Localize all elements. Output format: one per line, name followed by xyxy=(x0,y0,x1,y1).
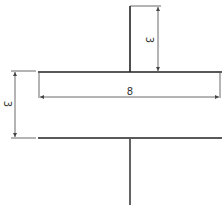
stem-height-label: 3 xyxy=(144,37,155,43)
thickness-label: 3 xyxy=(2,101,13,107)
drawing-canvas: 3 8 3 xyxy=(0,0,222,212)
flange-width-label: 8 xyxy=(127,86,133,97)
